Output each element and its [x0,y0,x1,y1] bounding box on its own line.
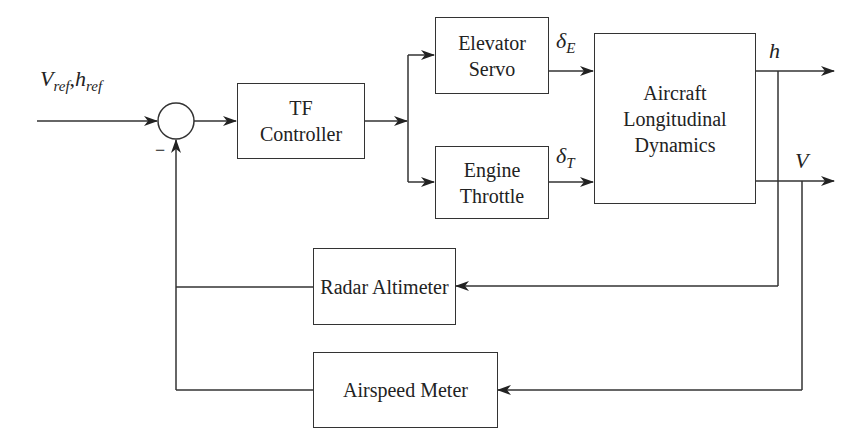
summing-junction [158,103,194,139]
radar-altimeter-block[interactable]: Radar Altimeter [313,248,456,325]
h-output-label: h [769,38,780,64]
elevator-line2: Servo [458,56,526,82]
radar-label: Radar Altimeter [320,274,448,300]
controller-line1: TF [260,95,342,121]
v-ref-symbol: V [40,66,53,91]
delta-e-label: δE [556,28,575,57]
delta-e-symbol: δ [556,28,566,53]
plant-line2: Longitudinal [623,106,726,132]
tf-controller-block[interactable]: TFController [237,83,365,159]
delta-t-label: δT [556,143,575,172]
delta-t-subscript: T [566,155,574,171]
airspeed-meter-block[interactable]: Airspeed Meter [313,352,498,428]
elevator-line1: Elevator [458,30,526,56]
aircraft-dynamics-block[interactable]: AircraftLongitudinalDynamics [594,33,756,204]
plant-line3: Dynamics [623,132,726,158]
input-label: Vref,href [40,66,102,95]
airspeed-label: Airspeed Meter [343,377,468,403]
engine-throttle-block[interactable]: EngineThrottle [435,146,549,219]
v-output-label: V [795,148,808,174]
throttle-line2: Throttle [460,183,524,209]
elevator-servo-block[interactable]: ElevatorServo [435,17,549,94]
feedback-minus-sign: − [155,140,165,161]
delta-t-symbol: δ [556,143,566,168]
v-ref-subscript: ref [53,78,69,94]
delta-e-subscript: E [566,40,575,56]
h-ref-symbol: h [75,66,86,91]
throttle-line1: Engine [460,157,524,183]
controller-line2: Controller [260,121,342,147]
h-ref-subscript: ref [86,78,102,94]
plant-line1: Aircraft [623,80,726,106]
